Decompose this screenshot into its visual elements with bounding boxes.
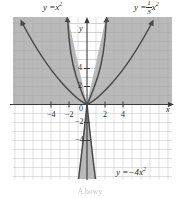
y-axis-label: y (79, 25, 83, 33)
y-tick-label-2: 2 (78, 82, 82, 90)
y-tick-label-neg2: −2 (75, 118, 84, 126)
x-axis-label: x (166, 106, 170, 114)
eq-left-lhs: y = (43, 2, 55, 12)
y-tick-label-neg4: −4 (75, 136, 84, 144)
eq-left-exponent: 2 (59, 1, 62, 7)
parabola-comparison-figure: y =x2 y =13x2 y =−4x2 y x 0 −4 −2 2 4 4 … (0, 0, 180, 198)
plot-canvas (0, 0, 180, 198)
eq-bottom-exponent: 2 (143, 166, 146, 172)
eq-right-lhs: y = (134, 2, 146, 12)
x-tick-label-2: 2 (103, 111, 107, 119)
eq-bottom-coef: −4 (128, 167, 139, 177)
fraction-numerator: 1 (146, 0, 152, 7)
equation-label-x-squared: y =x2 (43, 3, 62, 12)
x-tick-label-neg4: −4 (47, 111, 56, 119)
y-tick-label-4: 4 (78, 64, 82, 72)
fraction-one-third: 13 (146, 0, 152, 16)
x-tick-label-4: 4 (121, 111, 125, 119)
fraction-denominator: 3 (146, 9, 152, 16)
equation-label-negative-four-x-squared: y =−4x2 (116, 168, 146, 177)
eq-bottom-lhs: y = (116, 167, 128, 177)
eq-right-exponent: 2 (156, 1, 159, 7)
equation-label-one-third-x-squared: y =13x2 (134, 0, 159, 16)
x-tick-label-neg2: −2 (65, 111, 74, 119)
origin-label: 0 (79, 105, 83, 113)
figure-caption: A bowy (0, 188, 180, 196)
